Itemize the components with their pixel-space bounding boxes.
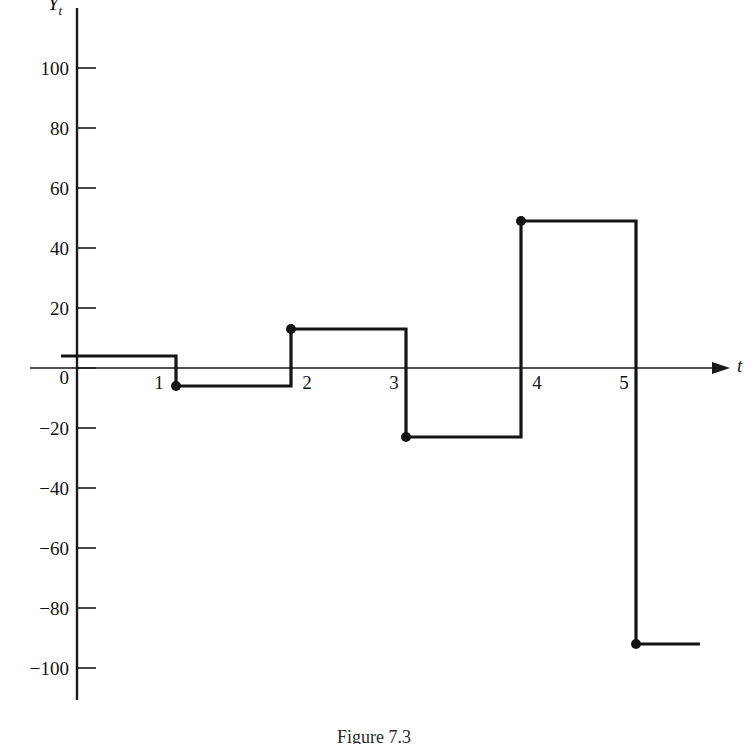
x-axis-title-text: t (737, 355, 742, 376)
data-point-marker (631, 639, 641, 649)
y-axis-title: Yt (48, 0, 62, 17)
y-axis-title-subscript: t (59, 3, 63, 18)
x-tick-label: 4 (526, 373, 548, 392)
x-axis-arrow-icon (712, 362, 730, 374)
figure-container: Yt t 100 80 60 40 20 0 −20 −40 −60 −80 −… (0, 0, 748, 744)
data-point-marker (516, 216, 526, 226)
y-tick-label: 0 (6, 368, 69, 387)
x-tick-label: 5 (613, 373, 635, 392)
data-point-marker (171, 381, 181, 391)
x-tick-label: 1 (148, 373, 170, 392)
y-tick-label: 80 (6, 119, 69, 138)
y-tick-label: −20 (6, 419, 69, 438)
x-axis-title: t (737, 356, 742, 375)
y-tick-label: −40 (6, 479, 69, 498)
x-tick-label: 3 (383, 373, 405, 392)
figure-caption: Figure 7.3 (0, 727, 748, 744)
step-function-plot (0, 0, 748, 744)
y-tick-label: 60 (6, 179, 69, 198)
step-markers (171, 216, 641, 649)
y-tick-label: −60 (6, 539, 69, 558)
step-series-path (61, 221, 700, 644)
x-tick-label: 2 (296, 373, 318, 392)
y-tick-label: 20 (6, 299, 69, 318)
y-tick-label: −80 (6, 599, 69, 618)
data-point-marker (286, 324, 296, 334)
y-tick-label: 100 (6, 59, 69, 78)
y-axis-title-text: Y (48, 0, 59, 14)
y-axis-ticks (77, 68, 96, 668)
y-tick-label: −100 (0, 659, 69, 678)
y-tick-label: 40 (6, 239, 69, 258)
data-point-marker (401, 432, 411, 442)
